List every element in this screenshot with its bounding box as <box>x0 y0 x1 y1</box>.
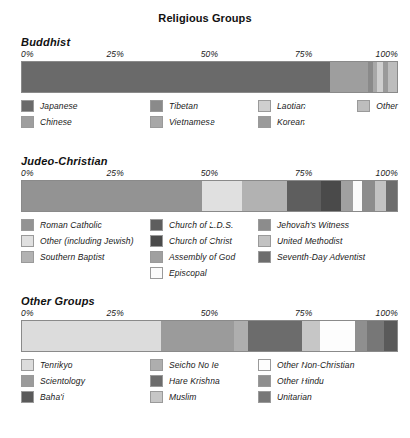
bar-segment <box>202 181 242 211</box>
axis-tick-75: 75% <box>295 308 313 318</box>
axis-judeo-christian: 0% 25% 50% 75% 100% <box>21 168 398 180</box>
legend-column: Other <box>342 99 398 128</box>
legend-item[interactable]: Roman Catholic <box>21 218 150 231</box>
legend-swatch-icon <box>21 235 34 247</box>
legend-swatch-icon <box>21 359 34 371</box>
axis-tick-0: 0% <box>21 49 34 59</box>
legend-label: Hare Krishna <box>169 376 220 386</box>
stacked-bar-buddhist <box>21 61 398 93</box>
chart-page: Religious Groups Buddhist 0% 25% 50% 75%… <box>0 0 410 438</box>
section-title-buddhist: Buddhist <box>21 36 410 48</box>
legend-swatch-icon <box>150 375 163 387</box>
axis-tick-50: 50% <box>201 49 219 59</box>
legend-column: Jehovah's WitnessUnited MethodistSeventh… <box>258 218 342 279</box>
legend-item[interactable]: Japanese <box>21 99 150 112</box>
legend-label: Jehovah's Witness <box>277 220 349 230</box>
legend-item[interactable]: Other <box>342 99 398 112</box>
bar-segment <box>386 181 397 211</box>
legend-label: Muslim <box>169 392 197 402</box>
legend-swatch-icon <box>258 100 271 112</box>
legend-item[interactable]: Church of L.D.S. <box>150 218 258 231</box>
legend-item[interactable]: Episcopal <box>150 266 258 279</box>
legend-item[interactable]: United Methodist <box>258 234 342 247</box>
legend-item[interactable]: Unitarian <box>258 390 342 403</box>
legend-item[interactable]: Church of Christ <box>150 234 258 247</box>
legend-swatch-icon <box>21 219 34 231</box>
legend-label: Church of Christ <box>169 236 232 246</box>
stacked-bar-other-groups <box>21 320 398 352</box>
section-judeo-christian: Judeo-Christian 0% 25% 50% 75% 100% Roma… <box>0 155 410 279</box>
legend-other-groups: TenrikyoScientologyBaha'iSeicho No IeHar… <box>21 358 398 403</box>
axis-buddhist: 0% 25% 50% 75% 100% <box>21 49 398 61</box>
bar-segment <box>22 181 202 211</box>
legend-label: Chinese <box>40 117 72 127</box>
legend-label: Japanese <box>40 101 78 111</box>
legend-item[interactable]: Other Hindu <box>258 374 342 387</box>
legend-item[interactable]: Tibetan <box>150 99 258 112</box>
legend-swatch-icon <box>150 235 163 247</box>
axis-tick-50: 50% <box>201 308 219 318</box>
legend-item[interactable]: Laotian <box>258 99 342 112</box>
legend-swatch-icon <box>258 219 271 231</box>
legend-label: Seicho No Ie <box>169 360 219 370</box>
legend-item[interactable]: Korean <box>258 115 342 128</box>
legend-label: Laotian <box>277 101 306 111</box>
page-title: Religious Groups <box>0 0 410 24</box>
bar-segment <box>234 321 248 351</box>
legend-label: Church of L.D.S. <box>169 220 233 230</box>
legend-label: Other Non-Christian <box>277 360 354 370</box>
legend-label: Korean <box>277 117 305 127</box>
legend-column: Roman CatholicOther (including Jewish)So… <box>21 218 150 279</box>
bar-segment <box>388 62 397 92</box>
legend-swatch-icon <box>258 359 271 371</box>
legend-label: Other (including Jewish) <box>40 236 134 246</box>
bar-segment <box>367 321 384 351</box>
legend-item[interactable]: Muslim <box>150 390 258 403</box>
legend-column: Seicho No IeHare KrishnaMuslim <box>150 358 258 403</box>
bar-segment <box>242 181 288 211</box>
legend-buddhist: JapaneseChineseTibetanVietnameseLaotianK… <box>21 99 398 128</box>
legend-item[interactable]: Baha'i <box>21 390 150 403</box>
legend-item[interactable]: Southern Baptist <box>21 250 150 263</box>
legend-swatch-icon <box>357 100 370 112</box>
bar-segment <box>341 181 353 211</box>
legend-item[interactable]: Chinese <box>21 115 150 128</box>
legend-label: Southern Baptist <box>40 252 104 262</box>
legend-column: TibetanVietnamese <box>150 99 258 128</box>
axis-tick-75: 75% <box>295 49 313 59</box>
legend-item[interactable]: Seventh-Day Adventist <box>258 250 342 263</box>
legend-item[interactable]: Other (including Jewish) <box>21 234 150 247</box>
legend-item[interactable]: Assembly of God <box>150 250 258 263</box>
stacked-bar-judeo-christian <box>21 180 398 212</box>
axis-tick-25: 25% <box>106 168 124 178</box>
legend-item[interactable]: Hare Krishna <box>150 374 258 387</box>
bar-segment <box>375 181 386 211</box>
axis-tick-0: 0% <box>21 168 34 178</box>
bar-segment <box>355 321 368 351</box>
bar-segment <box>353 181 362 211</box>
bar-segment <box>22 62 330 92</box>
legend-judeo-christian: Roman CatholicOther (including Jewish)So… <box>21 218 398 279</box>
legend-label: Episcopal <box>169 268 207 278</box>
legend-column: TenrikyoScientologyBaha'i <box>21 358 150 403</box>
section-title-judeo-christian: Judeo-Christian <box>21 155 410 167</box>
axis-tick-75: 75% <box>295 168 313 178</box>
legend-swatch-icon <box>258 116 271 128</box>
legend-swatch-icon <box>21 100 34 112</box>
legend-label: Vietnamese <box>169 117 215 127</box>
legend-item[interactable]: Scientology <box>21 374 150 387</box>
legend-item[interactable]: Seicho No Ie <box>150 358 258 371</box>
legend-item[interactable]: Tenrikyo <box>21 358 150 371</box>
legend-swatch-icon <box>21 375 34 387</box>
legend-label: Scientology <box>40 376 85 386</box>
legend-item[interactable]: Vietnamese <box>150 115 258 128</box>
legend-label: Tenrikyo <box>40 360 73 370</box>
axis-tick-50: 50% <box>201 168 219 178</box>
legend-swatch-icon <box>150 100 163 112</box>
legend-item[interactable]: Other Non-Christian <box>258 358 342 371</box>
legend-item[interactable]: Jehovah's Witness <box>258 218 342 231</box>
axis-tick-100: 100% <box>375 49 398 59</box>
legend-column: Church of L.D.S.Church of ChristAssembly… <box>150 218 258 279</box>
legend-column: LaotianKorean <box>258 99 342 128</box>
legend-label: Other <box>376 101 398 111</box>
